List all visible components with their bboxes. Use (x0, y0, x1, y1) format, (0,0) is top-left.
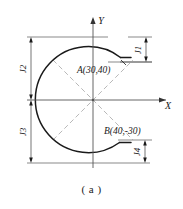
drawing-canvas: X Y A(30,40) B(40,-30) J1 J2 J3 J4 (0, 0, 183, 209)
dimension-arrow-j2-bottom (29, 95, 33, 101)
dimension-label-j2: J2 (18, 64, 28, 73)
dimension-arrow-j2-top (29, 37, 33, 43)
dimension-label-j3: J3 (18, 127, 28, 136)
dimension-arrow-j3-top (29, 100, 33, 106)
technical-drawing-figure: X Y A(30,40) B(40,-30) J1 J2 J3 J4 (0, 0, 183, 209)
dimension-j3: J3 (18, 100, 33, 163)
origin-marker (92, 99, 95, 102)
y-axis-label: Y (98, 15, 105, 26)
leader-tick-a (121, 60, 126, 65)
dimension-arrow-j4-bottom (143, 158, 147, 164)
dimension-arrow-j4-top (143, 140, 147, 146)
point-label-b: B(40,-30) (104, 126, 141, 137)
y-axis-arrowhead (90, 17, 95, 24)
point-label-a: A(30,40) (76, 65, 111, 76)
dimension-label-j4: J4 (132, 147, 142, 156)
x-axis-label: X (164, 100, 172, 111)
figure-caption: ( a ) (0, 183, 183, 195)
dimension-arrow-j3-bottom (29, 158, 33, 164)
dimension-j2: J2 (18, 37, 33, 100)
dimension-label-j1: J1 (133, 46, 143, 55)
dimension-j1: J1 (133, 37, 148, 62)
leader-ticks (121, 60, 126, 65)
dimension-j4: J4 (132, 140, 147, 163)
dimension-arrow-j1-top (144, 37, 148, 43)
dimension-arrow-j1-bottom (144, 57, 148, 63)
